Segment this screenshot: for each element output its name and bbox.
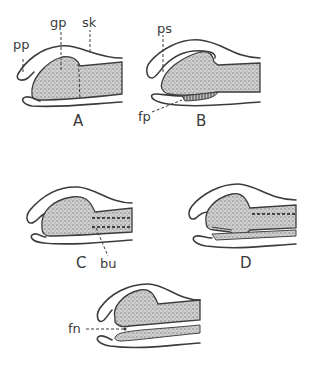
diagram-canvas: pp gp sk A ps fp B bu C D bbox=[0, 0, 317, 365]
panel-label-d: D bbox=[240, 254, 252, 272]
label-fp: fp bbox=[138, 109, 151, 124]
panel-label-a: A bbox=[73, 112, 84, 130]
glans-e bbox=[114, 290, 200, 327]
label-gp: gp bbox=[50, 15, 67, 30]
panel-c: bu C bbox=[27, 187, 132, 272]
label-ps: ps bbox=[157, 21, 172, 36]
glans-b bbox=[161, 52, 260, 95]
label-bu: bu bbox=[100, 256, 117, 271]
label-fn: fn bbox=[68, 321, 81, 336]
panel-label-b: B bbox=[196, 112, 206, 130]
panel-e: fn bbox=[68, 284, 200, 348]
panel-label-c: C bbox=[76, 254, 86, 272]
label-pp: pp bbox=[13, 37, 30, 52]
urethra-e bbox=[115, 325, 200, 341]
panel-a: pp gp sk A bbox=[13, 15, 122, 130]
label-sk: sk bbox=[82, 15, 97, 30]
panel-d: D bbox=[189, 184, 296, 272]
glans-a bbox=[32, 57, 122, 100]
fn-point bbox=[124, 328, 127, 331]
panel-b: ps fp B bbox=[138, 21, 260, 130]
glans-c bbox=[42, 197, 132, 236]
